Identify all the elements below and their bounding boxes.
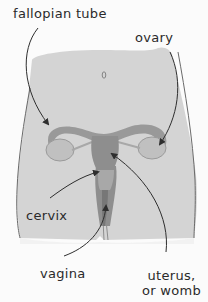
right-ovary — [138, 137, 166, 159]
uterus-body — [91, 136, 119, 168]
left-ovary — [46, 139, 74, 161]
label-ovary: ovary — [135, 30, 173, 45]
label-uterus: uterus, or womb — [142, 268, 201, 298]
diagram: fallopian tube ovary cervix vagina uteru… — [0, 0, 208, 302]
label-fallopian-tube: fallopian tube — [13, 6, 107, 21]
anatomy-illustration — [0, 0, 208, 302]
label-vagina: vagina — [40, 266, 86, 281]
label-cervix: cervix — [26, 208, 67, 223]
